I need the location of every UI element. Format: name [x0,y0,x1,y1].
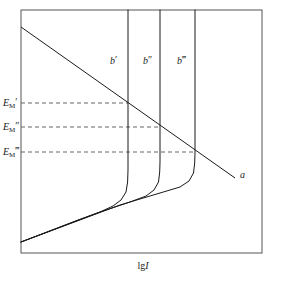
x-axis-label-variable: I [145,260,148,271]
curve-label-b-triple-prime: b‴ [177,55,186,66]
y-tick-label-em-2: EM″ [3,121,20,134]
curve-label-b-double-prime: b″ [143,55,152,66]
y-tick-primes: ‴ [15,145,19,156]
curve-b-prime [21,10,128,242]
curve-b-double-prime [21,10,160,242]
polarization-diagram: EM′ EM″ EM‴ b′ b″ b‴ a lgI [0,0,286,282]
y-tick-primes: ″ [15,120,19,131]
curve-label-primes: ″ [148,54,152,65]
y-tick-label-em-3: EM‴ [3,146,20,159]
plot-canvas [0,0,286,282]
curve-b-triple-prime [21,10,195,242]
plot-frame-border [21,10,262,253]
y-tick-label-em-1: EM′ [3,97,18,110]
line-label-a: a [240,170,245,180]
x-axis-label: lgI [0,260,286,271]
curve-label-primes: ‴ [182,54,186,65]
curve-label-b-prime: b′ [110,55,117,66]
curve-label-primes: ′ [115,54,117,65]
y-tick-primes: ′ [15,96,17,107]
